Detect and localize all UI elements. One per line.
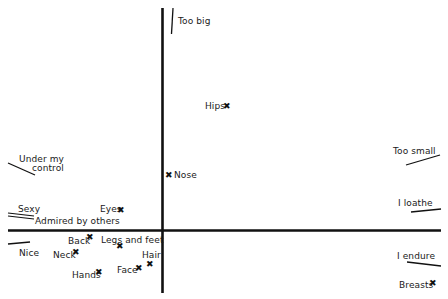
label-i-endure: I endure	[397, 251, 435, 261]
point-label-legs-and-feet: Legs and feet	[101, 235, 164, 245]
x-mark-icon: ✖	[146, 260, 154, 269]
x-mark-icon: ✖	[165, 171, 173, 180]
x-mark-icon: ✖	[72, 248, 80, 257]
admired-tick	[8, 216, 34, 219]
too-small-tick	[406, 155, 440, 165]
nice-tick	[8, 242, 30, 244]
label-too-small: Too small	[393, 146, 436, 156]
point-label-nose: Nose	[174, 170, 197, 180]
x-mark-icon: ✖	[95, 268, 103, 277]
x-mark-icon: ✖	[86, 233, 94, 242]
too-big-tick	[172, 8, 174, 34]
x-mark-icon: ✖	[135, 264, 143, 273]
label-sexy: Sexy	[18, 204, 40, 214]
i-loathe-tick	[411, 209, 441, 212]
label-i-loathe: I loathe	[398, 198, 433, 208]
x-mark-icon: ✖	[117, 206, 125, 215]
label-nice: Nice	[19, 248, 39, 258]
x-mark-icon: ✖	[223, 102, 231, 111]
label-too-big: Too big	[178, 16, 210, 26]
under-my-control-tick	[8, 163, 35, 175]
label-admired-by-others: Admired by others	[35, 216, 120, 226]
i-endure-tick	[407, 262, 441, 266]
label-control: control	[32, 163, 64, 173]
x-mark-icon: ✖	[116, 242, 124, 251]
x-mark-icon: ✖	[429, 279, 437, 288]
